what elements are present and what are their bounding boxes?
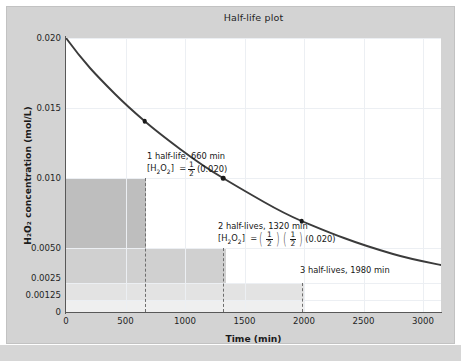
- x-axis-line: [65, 312, 442, 313]
- annotation-half-life-1: 1 half-life, 660 min [H2O2] = 1 2 (0.020…: [147, 151, 227, 178]
- x-tick-label: 2000: [293, 316, 315, 326]
- x-axis-title: Time (min): [66, 333, 441, 344]
- annotation-1-equation: [H2O2] = 1 2 (0.020): [147, 161, 227, 177]
- annotation-2-fraction-2: 1 2: [290, 231, 297, 247]
- annotation-half-life-2: 2 half-lives, 1320 min [H2O2] = ( 1 2 ) …: [218, 221, 335, 248]
- right-paren-2: ): [299, 233, 303, 245]
- y-axis-line: [65, 36, 66, 314]
- annotation-1-line1: 1 half-life, 660 min: [147, 151, 227, 161]
- fraction-denominator: 2: [188, 169, 195, 178]
- annotation-2-equation: [H2O2] = ( 1 2 ) ( 1 2 ) (0.020): [218, 231, 335, 247]
- annotation-2-fraction-1: 1 2: [266, 231, 273, 247]
- annotation-half-life-3: 3 half-lives, 1980 min: [300, 265, 390, 275]
- fraction-numerator: 1: [290, 231, 297, 239]
- fraction-denominator: 2: [266, 239, 273, 248]
- y-tick-label: 0.020: [36, 33, 61, 43]
- x-tick-label: 0: [63, 316, 68, 326]
- y-tick-label: 0.010: [36, 173, 61, 183]
- y-tick-label: 0.0050: [31, 243, 61, 253]
- x-tick-label: 2500: [353, 316, 375, 326]
- x-tick-label: 500: [117, 316, 133, 326]
- y-tick-label: 0.00125: [25, 290, 61, 300]
- y-tick-label: 0: [56, 307, 61, 317]
- annotation-1-eq-tail: (0.020): [197, 164, 227, 174]
- figure-bottom-strip: [0, 345, 461, 361]
- half-life-plot-figure: Half-life plot 0.020 0.015 0.010 0.0050 …: [0, 0, 461, 361]
- x-tick-label: 3000: [412, 316, 434, 326]
- fraction-denominator: 2: [290, 239, 297, 248]
- left-paren-2: (: [283, 233, 287, 245]
- y-axis-title: H₂O₂ concentration (mol/L): [22, 76, 33, 276]
- left-paren-1: (: [259, 233, 263, 245]
- chart-title: Half-life plot: [66, 12, 441, 23]
- marker-half-life-1: [142, 119, 147, 124]
- y-tick-label: 0.0025: [31, 273, 61, 283]
- fraction-numerator: 1: [188, 161, 195, 169]
- fraction-numerator: 1: [266, 231, 273, 239]
- annotation-3-line1: 3 half-lives, 1980 min: [300, 265, 390, 275]
- annotation-1-fraction: 1 2: [188, 161, 195, 177]
- y-tick-label: 0.015: [36, 103, 61, 113]
- annotation-2-eq-tail: (0.020): [305, 234, 335, 244]
- x-tick-label: 1000: [174, 316, 196, 326]
- right-paren-1: ): [276, 233, 280, 245]
- annotation-2-eq-prefix: [H2O2] =: [218, 233, 257, 245]
- x-tick-label: 1500: [234, 316, 256, 326]
- annotation-1-eq-prefix: [H2O2] =: [147, 163, 186, 175]
